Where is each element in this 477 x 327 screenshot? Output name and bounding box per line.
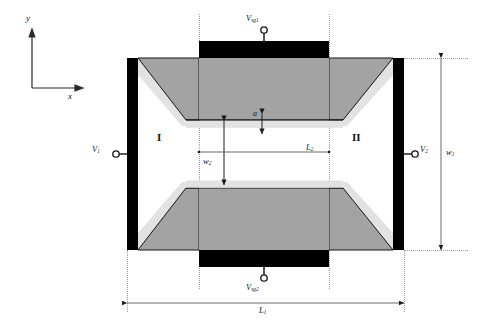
dimension-label-a: a — [253, 110, 257, 118]
dimension-label-l1: L1 — [259, 306, 266, 315]
dimension-annotations — [0, 0, 477, 327]
dimension-label-l2: L2 — [306, 143, 313, 152]
dimension-label-w2: w2 — [203, 157, 211, 166]
dimension-label-w1: w1 — [446, 148, 454, 157]
device-schematic-figure: y x — [0, 0, 477, 327]
